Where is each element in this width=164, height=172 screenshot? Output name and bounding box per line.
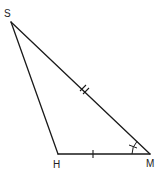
edge-SH (11, 22, 58, 154)
angle-mark-M (129, 142, 137, 154)
vertex-label-S: S (4, 8, 11, 19)
triangle-shape (11, 22, 150, 154)
vertex-label-H: H (53, 159, 60, 170)
vertex-label-M: M (146, 158, 154, 169)
edge-SM (11, 22, 150, 154)
triangle-diagram: S H M (0, 0, 164, 172)
double-tick-mark-SM (80, 85, 89, 94)
